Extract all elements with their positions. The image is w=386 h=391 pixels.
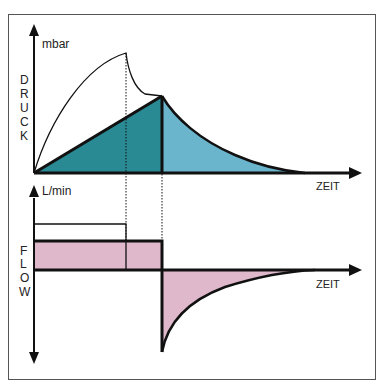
pressure-y-letter: D — [20, 73, 29, 87]
flow-y-up-arrow-icon — [29, 185, 39, 197]
pressure-y-letter: R — [20, 87, 29, 101]
pressure-y-arrow-icon — [29, 24, 39, 36]
pressure-expiration-area — [162, 96, 305, 173]
pressure-unit-label: mbar — [42, 37, 69, 51]
pressure-y-letter: K — [20, 129, 28, 143]
pressure-x-arrow-icon — [349, 167, 362, 179]
flow-unit-label: L/min — [42, 184, 71, 198]
flow-time-label: ZEIT — [316, 278, 340, 290]
flow-y-down-arrow-icon — [29, 352, 39, 364]
ventilation-diagram: mbar ZEIT D R U C K L/min ZEIT F L O W — [0, 0, 386, 391]
pressure-time-label: ZEIT — [316, 180, 340, 192]
flow-x-arrow-icon — [349, 264, 362, 276]
flow-inspiration-area — [34, 241, 162, 270]
pressure-y-letter: U — [20, 101, 29, 115]
flow-y-letter: W — [19, 285, 31, 299]
flow-y-letter: O — [20, 271, 29, 285]
flow-y-letter: F — [20, 244, 27, 258]
flow-y-letter: L — [20, 257, 27, 271]
pressure-y-letter: C — [20, 115, 29, 129]
